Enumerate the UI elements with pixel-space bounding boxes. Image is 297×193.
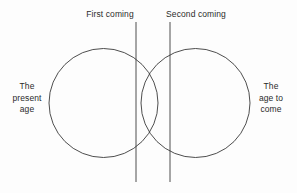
- label-age-to-come-line1: The: [243, 81, 297, 93]
- label-present-age-line2: present: [0, 92, 55, 104]
- label-first-coming: First coming: [86, 9, 134, 21]
- label-present-age-line1: The: [0, 81, 55, 93]
- label-age-to-come: The age to come: [243, 81, 297, 116]
- label-age-to-come-line3: come: [243, 104, 297, 116]
- label-age-to-come-line2: age to: [243, 92, 297, 104]
- label-present-age-line3: age: [0, 104, 55, 116]
- right-circle-age-to-come: [141, 49, 250, 158]
- label-second-coming: Second coming: [166, 9, 226, 21]
- left-circle-present-age: [49, 49, 158, 158]
- label-present-age: The present age: [0, 81, 55, 116]
- diagram-canvas: First coming Second coming The present a…: [0, 0, 297, 193]
